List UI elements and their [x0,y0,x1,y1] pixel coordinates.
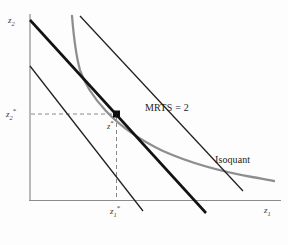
x-tick-star: * [117,204,121,212]
y-axis-label-sub: 2 [12,20,15,27]
optimum-label-star: * [110,119,114,127]
isoquant-annotation: Isoquant [215,155,250,165]
y-tick-star: * [13,107,17,115]
isocost-line-lower [30,66,143,211]
isoquant-isocost-figure: z2 z2* z1* z1 MRTS = 2 Isoquant z* [0,0,288,245]
y-axis-tick-label: z2* [6,108,16,121]
y-axis-label: z2 [8,16,15,27]
figure-canvas [0,0,288,245]
x-axis-label: z1 [264,206,271,217]
x-axis-tick-label: z1* [110,205,120,218]
mrts-annotation: MRTS = 2 [145,103,189,113]
x-axis-label-sub: 1 [268,210,271,217]
optimum-point-marker [113,111,120,118]
optimum-point-label: z* [107,120,114,130]
